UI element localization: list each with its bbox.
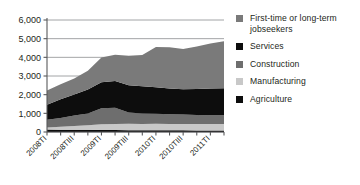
x-tick-label: 2010TIII [157, 134, 184, 161]
legend-item[interactable]: Manufacturing [236, 76, 360, 87]
x-tick-label: 2009TI [79, 134, 103, 158]
legend-item[interactable]: First-time or long-term jobseekers [236, 13, 360, 34]
y-tick-label: 1,000 [18, 109, 41, 119]
legend-item[interactable]: Services [236, 41, 360, 52]
x-tick-label: 2011TI [188, 134, 212, 158]
legend-item-label: Manufacturing [250, 76, 306, 87]
chart-legend: First-time or long-term jobseekersServic… [236, 13, 360, 111]
x-tick-label: 2009TIII [103, 134, 130, 161]
area-series-group [47, 41, 224, 132]
stacked-area-chart-figure: 01,0002,0003,0004,0005,0006,000 2008TI20… [0, 0, 360, 185]
y-tick-labels-group: 01,0002,0003,0004,0005,0006,000 [18, 15, 41, 137]
x-tick-label: 2010TI [133, 134, 157, 158]
y-tick-label: 4,000 [18, 53, 41, 63]
legend-item[interactable]: Agriculture [236, 94, 360, 105]
y-tick-label: 2,000 [18, 90, 41, 100]
legend-swatch-jobseekers [236, 15, 243, 22]
legend-item-label: Construction [250, 59, 299, 70]
legend-item-label: Services [250, 41, 284, 52]
plot-area-wrapper: 01,0002,0003,0004,0005,0006,000 2008TI20… [0, 0, 232, 185]
legend-item-label: Agriculture [250, 94, 292, 105]
legend-swatch-services [236, 43, 243, 50]
x-tick-labels-group: 2008TI2008TIII2009TI2009TIII2010TI2010TI… [24, 134, 211, 161]
y-tick-label: 5,000 [18, 34, 41, 44]
legend-swatch-manufacturing [236, 78, 243, 85]
x-tick-label: 2008TIII [49, 134, 76, 161]
y-tick-label: 6,000 [18, 15, 41, 25]
chart-canvas: 01,0002,0003,0004,0005,0006,000 2008TI20… [0, 0, 232, 185]
legend-swatch-agriculture [236, 96, 243, 103]
legend-item-label: First-time or long-term jobseekers [250, 13, 360, 34]
x-tick-label: 2008TI [24, 134, 48, 158]
legend-swatch-construction [236, 61, 243, 68]
legend-item[interactable]: Construction [236, 59, 360, 70]
y-tick-label: 3,000 [18, 71, 41, 81]
